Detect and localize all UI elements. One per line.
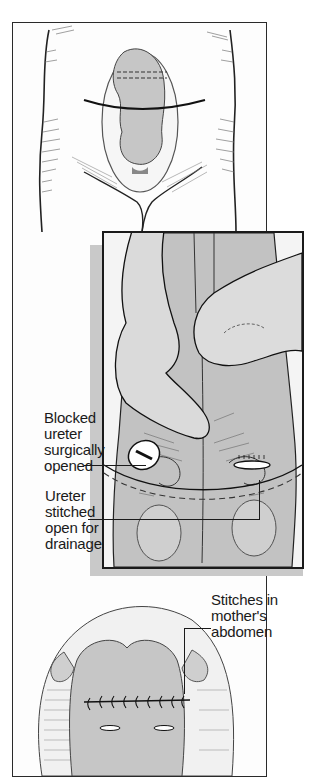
label-line: drainage xyxy=(45,536,102,552)
leader-line-stitched-v xyxy=(259,480,260,520)
label-line: open for xyxy=(45,520,102,536)
label-line: surgically xyxy=(44,442,105,458)
label-line: opened xyxy=(44,458,105,474)
label-line: mother's xyxy=(211,608,278,624)
label-line: Ureter xyxy=(45,488,102,504)
fetal-back-illustration xyxy=(104,233,302,567)
leader-line-stitched-h xyxy=(88,519,260,520)
label-line: ureter xyxy=(44,426,105,442)
label-blocked-ureter: Blocked ureter surgically opened xyxy=(44,410,105,474)
top-abdomen-illustration xyxy=(12,22,267,232)
leader-line-mother-v xyxy=(184,628,185,694)
leader-line-mother-h xyxy=(184,628,211,629)
label-line: Blocked xyxy=(44,410,105,426)
label-ureter-stitched: Ureter stitched open for drainage xyxy=(45,488,102,552)
label-line: abdomen xyxy=(211,624,278,640)
label-line: Stitches in xyxy=(211,592,278,608)
label-mother-stitches: Stitches in mother's abdomen xyxy=(211,592,278,640)
label-line: stitched xyxy=(45,504,102,520)
